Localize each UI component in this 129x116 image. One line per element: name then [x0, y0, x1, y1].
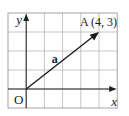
- vector-arrowhead-icon: [90, 32, 99, 40]
- y-axis-arrow-icon: [23, 14, 29, 21]
- vector-a: [26, 38, 92, 89]
- vector-label: a: [52, 52, 58, 66]
- x-axis-label: x: [110, 94, 117, 109]
- diagram-canvas: y x O a A (4, 3): [0, 0, 129, 116]
- origin-label: O: [14, 92, 23, 107]
- point-a-label: A (4, 3): [80, 15, 117, 29]
- vector-diagram: y x O a A (4, 3): [0, 0, 129, 116]
- y-axis-label: y: [14, 12, 22, 27]
- x-axis-arrow-icon: [109, 86, 116, 92]
